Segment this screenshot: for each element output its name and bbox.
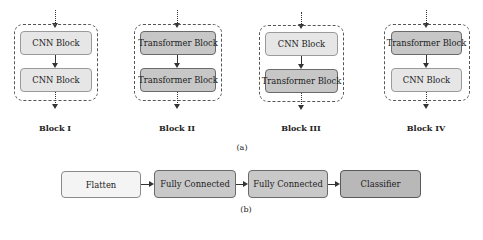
transformer-block: Transformer Block: [391, 31, 462, 55]
fully-connected-layer: Fully Connected: [154, 170, 236, 198]
caption-a: (a): [232, 143, 252, 152]
arrow-down-icon: [174, 104, 180, 109]
cnn-block: CNN Block: [20, 68, 92, 92]
arrow-down-icon: [298, 105, 304, 110]
cnn-block: CNN Block: [391, 68, 462, 92]
arrow-down-icon: [423, 104, 429, 109]
fully-connected-layer: Fully Connected: [248, 170, 328, 198]
arrow-down-icon: [52, 104, 58, 109]
transformer-block: Transformer Block: [140, 68, 216, 92]
transformer-block: Transformer Block: [140, 31, 216, 55]
classifier-layer: Classifier: [340, 170, 421, 198]
transformer-block: Transformer Block: [265, 69, 338, 93]
cnn-block: CNN Block: [265, 32, 338, 56]
caption-b: (b): [236, 205, 256, 214]
flatten-layer: Flatten: [61, 171, 141, 198]
block-label: Block I: [25, 123, 85, 133]
block-label: Block IV: [396, 123, 456, 133]
cnn-block: CNN Block: [20, 31, 92, 55]
block-label: Block II: [147, 123, 207, 133]
block-label: Block III: [271, 123, 331, 133]
